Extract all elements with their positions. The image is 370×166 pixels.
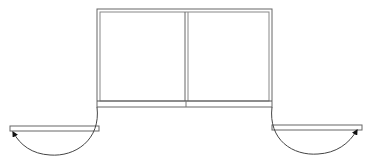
right-door-swing-arc [272,107,357,154]
left-door-panel [10,126,99,131]
cabinet-frame [97,9,272,107]
right-door-panel [272,125,362,130]
right-door [272,107,362,154]
left-door [10,107,99,155]
door-swing-diagram [0,0,370,166]
